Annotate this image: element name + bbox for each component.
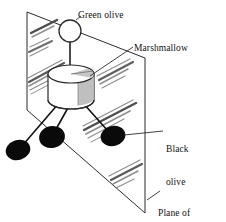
black-olive-left bbox=[3, 137, 33, 164]
symmetry-plane-diagram: Green olive Marshmallow Black olive Plan… bbox=[0, 0, 226, 222]
label-marshmallow: Marshmallow bbox=[134, 43, 188, 54]
label-black-olive-line1: Black bbox=[166, 144, 189, 155]
label-plane-line1: Plane of bbox=[158, 208, 197, 219]
marshmallow-cylinder bbox=[48, 65, 94, 109]
label-green-olive: Green olive bbox=[78, 10, 124, 21]
green-olive-shape bbox=[59, 20, 81, 42]
label-plane-of-symmetry: Plane of symmetry bbox=[158, 186, 197, 222]
